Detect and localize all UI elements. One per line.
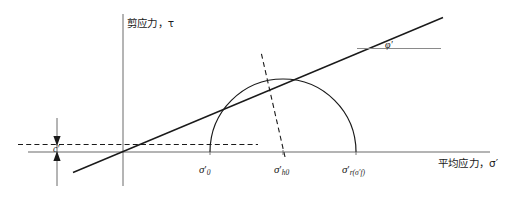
x-axis-label: 平均应力，σ′	[438, 158, 498, 169]
sigma-0-subscript: 0	[207, 168, 211, 177]
radius-dashed-line	[261, 52, 285, 157]
mohr-coulomb-diagram: 剪应力，τ 平均应力，σ′ φ′ c′ σ′0 σ′h0 σ′r(σ′f)	[0, 0, 508, 221]
friction-angle-label: φ′	[385, 40, 393, 50]
sigma-rf-subscript: r(σ′f)	[350, 168, 365, 177]
y-axis-label: 剪应力，τ	[127, 18, 174, 29]
sigma-rf-label: σ′r(σ′f)	[342, 164, 365, 177]
sigma-h0-subscript: h0	[282, 168, 290, 177]
diagram-canvas	[0, 0, 508, 221]
sigma-0-label: σ′0	[199, 164, 210, 177]
sigma-h0-label: σ′h0	[274, 164, 289, 177]
cohesion-label: c′	[53, 145, 59, 155]
mohr-circle	[210, 79, 356, 152]
